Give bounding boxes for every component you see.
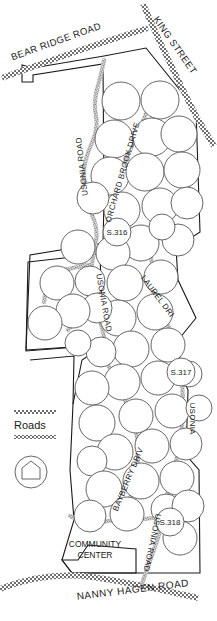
lot-circle <box>28 306 62 340</box>
lot-circles <box>28 81 212 555</box>
lot-circle <box>61 230 95 264</box>
legend-roads-swatch-top <box>14 410 56 414</box>
lot-circle <box>75 371 109 405</box>
legend-roads-label: Roads <box>14 419 46 431</box>
lot-circle <box>161 116 197 152</box>
southwest-parcel-boundary <box>30 356 74 404</box>
label-nanny-hagen-road-text: NANNY HAGEN ROAD <box>76 577 189 602</box>
lot-circle <box>126 153 164 191</box>
lot-circle <box>141 81 179 119</box>
label-usonia-road-south: USONIA ROAD <box>142 513 163 573</box>
lot-circle <box>65 330 91 356</box>
label-nanny-hagen-road: NANNY HAGEN ROAD <box>76 577 189 602</box>
site-marker-s317: S.317 <box>167 358 195 386</box>
lot-circle <box>104 364 140 400</box>
site-marker-s316: S.316 <box>103 218 131 246</box>
map-legend: Roads <box>14 410 56 488</box>
community-center-line1: COMMUNITY <box>69 539 122 549</box>
community-center-line2: CENTER <box>78 550 113 560</box>
site-marker-label: S.317 <box>171 368 192 377</box>
label-usonia-road-north-text: USONIA ROAD <box>74 137 90 197</box>
house-in-circle-icon <box>15 456 47 488</box>
lot-circle <box>171 187 203 219</box>
place-community-center: COMMUNITY CENTER <box>69 539 122 560</box>
lot-circle <box>119 399 153 433</box>
label-usonia-east: USONIA <box>188 402 197 435</box>
usonia-site-plan-map: S.316 S.317 S.318 BEAR RIDGE ROAD KING S… <box>0 0 217 621</box>
lot-circle <box>170 428 202 460</box>
site-marker-label: S.318 <box>160 518 181 527</box>
legend-roads-swatch-bottom <box>14 435 56 439</box>
lot-circle <box>149 214 175 240</box>
map-canvas: S.316 S.317 S.318 BEAR RIDGE ROAD KING S… <box>0 0 217 621</box>
label-usonia-road-south-text: USONIA ROAD <box>142 513 163 573</box>
lot-circle <box>113 331 149 367</box>
lot-circle <box>155 394 189 428</box>
lot-circle <box>74 500 106 532</box>
label-usonia-road-north: USONIA ROAD <box>74 137 90 197</box>
label-usonia-east-text: USONIA <box>188 402 197 435</box>
lot-circle <box>102 82 140 120</box>
lot-circle <box>164 152 200 188</box>
site-marker-label: S.316 <box>107 228 128 237</box>
lot-circle <box>151 328 185 362</box>
lot-circle <box>107 265 143 301</box>
